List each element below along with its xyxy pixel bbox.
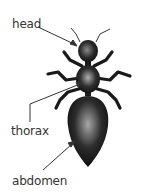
ant-abdomen (68, 96, 109, 167)
label-head: head (12, 17, 41, 31)
ant-diagram: head thorax abdomen (0, 0, 146, 196)
label-thorax: thorax (11, 124, 49, 138)
antennae (71, 28, 110, 42)
pointer-head (38, 27, 77, 46)
pointer-abdomen (43, 141, 75, 170)
ant-head (78, 40, 98, 62)
label-abdomen: abdomen (12, 174, 67, 188)
ant-thorax (76, 65, 100, 93)
